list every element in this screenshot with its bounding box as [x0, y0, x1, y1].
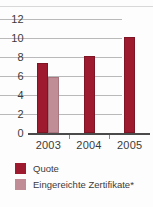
- y-tick-label-0: 0: [0, 128, 24, 139]
- y-tick-label-8: 8: [0, 52, 24, 63]
- bar-chart-figure: 024681012 200320042005 Quote Eingereicht…: [0, 0, 153, 207]
- legend-label-eingereichte-zertifikate: Eingereichte Zertifikate*: [33, 179, 134, 190]
- chart-legend: Quote Eingereichte Zertifikate*: [15, 163, 153, 195]
- y-tick-label-6: 6: [0, 71, 24, 82]
- legend-item-quote: Quote: [15, 163, 153, 174]
- plot-area: [28, 19, 150, 133]
- y-tick-label-4: 4: [0, 90, 24, 101]
- legend-swatch-quote: [15, 163, 26, 174]
- legend-item-eingereichte-zertifikate: Eingereichte Zertifikate*: [15, 179, 153, 190]
- x-tick-label-2003: 2003: [28, 139, 69, 151]
- bar-quote-2003: [37, 63, 48, 133]
- bar-eingereichte-zertifikate-2003: [48, 77, 59, 133]
- legend-label-quote: Quote: [33, 163, 59, 174]
- top-divider: [0, 6, 153, 7]
- y-tick-label-2: 2: [0, 109, 24, 120]
- y-tick-label-10: 10: [0, 33, 24, 44]
- bar-quote-2004: [84, 56, 95, 133]
- bar-quote-2005: [124, 37, 135, 133]
- legend-swatch-eingereichte-zertifikate: [15, 179, 26, 190]
- x-axis-line: [28, 133, 150, 135]
- x-tick-label-2004: 2004: [69, 139, 110, 151]
- x-tick-label-2005: 2005: [109, 139, 150, 151]
- y-tick-label-12: 12: [0, 14, 24, 25]
